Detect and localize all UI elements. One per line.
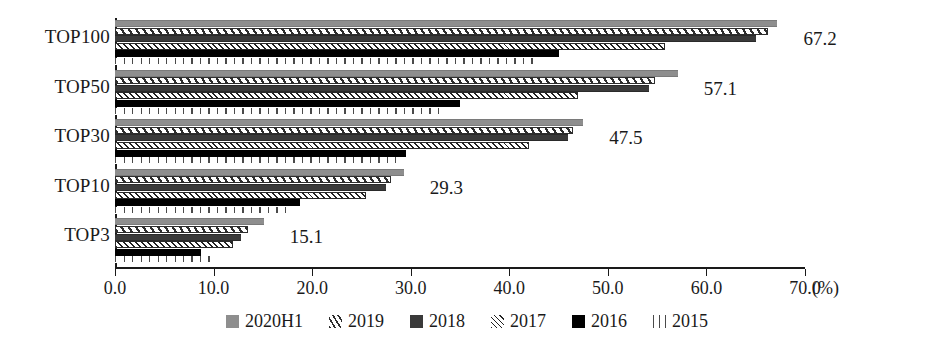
bar-top3-2017 xyxy=(115,241,233,248)
category-label-top10: TOP10 xyxy=(2,175,110,197)
x-tick xyxy=(509,269,510,276)
x-tick-label: 60.0 xyxy=(691,278,723,299)
bar-top3-2016 xyxy=(115,249,201,256)
legend: 2020H120192018201720162015 xyxy=(0,312,934,330)
x-tick xyxy=(115,269,116,276)
x-tick xyxy=(312,269,313,276)
bar-top100-2016 xyxy=(115,50,559,57)
bar-top30-2019 xyxy=(115,127,573,134)
bar-top50-2017 xyxy=(115,92,578,99)
legend-label: 2016 xyxy=(591,312,627,330)
bar-top3-2020h1 xyxy=(115,218,264,225)
bar-top10-2017 xyxy=(115,192,366,199)
category-label-top3: TOP3 xyxy=(2,224,110,246)
bar-top30-2017 xyxy=(115,142,529,149)
legend-label: 2020H1 xyxy=(245,312,303,330)
category-label-top100: TOP100 xyxy=(2,26,110,48)
legend-item-2015[interactable]: 2015 xyxy=(653,312,708,330)
bar-top10-2020h1 xyxy=(115,169,404,176)
bar-top10-2018 xyxy=(115,184,386,191)
x-tick-label: 50.0 xyxy=(592,278,624,299)
x-tick xyxy=(411,269,412,276)
legend-item-2018[interactable]: 2018 xyxy=(410,312,465,330)
bar-top10-2016 xyxy=(115,199,300,206)
bar-top100-2015 xyxy=(115,58,539,65)
bar-top100-2020h1 xyxy=(115,20,777,27)
category-label-group: TOP100TOP50TOP30TOP10TOP3 xyxy=(0,18,110,268)
x-tick xyxy=(706,269,707,276)
bar-chart: TOP100TOP50TOP30TOP10TOP3 67.257.147.529… xyxy=(0,0,934,350)
bar-group xyxy=(115,119,805,169)
data-label-top100: 67.2 xyxy=(803,28,836,50)
bar-top30-2016 xyxy=(115,150,406,157)
data-label-top30: 47.5 xyxy=(609,127,642,149)
bar-group xyxy=(115,20,805,70)
swatch-2020h1-icon xyxy=(226,315,239,328)
x-tick xyxy=(608,269,609,276)
bar-top50-2015 xyxy=(115,108,445,115)
category-label-top30: TOP30 xyxy=(2,125,110,147)
swatch-2015-icon xyxy=(653,315,666,328)
legend-item-2017[interactable]: 2017 xyxy=(491,312,546,330)
swatch-2019-icon xyxy=(329,315,342,328)
bar-top100-2017 xyxy=(115,43,665,50)
x-tick-label: 0.0 xyxy=(104,278,127,299)
bar-top3-2015 xyxy=(115,256,217,263)
swatch-2016-icon xyxy=(572,315,585,328)
legend-label: 2017 xyxy=(510,312,546,330)
bar-top10-2015 xyxy=(115,207,292,214)
data-label-top50: 57.1 xyxy=(704,78,737,100)
swatch-2018-icon xyxy=(410,315,423,328)
x-tick-label: 30.0 xyxy=(395,278,427,299)
bar-top30-2020h1 xyxy=(115,119,583,126)
swatch-2017-icon xyxy=(491,315,504,328)
bar-top50-2016 xyxy=(115,100,460,107)
bar-top30-2018 xyxy=(115,134,568,141)
bar-top100-2019 xyxy=(115,28,768,35)
x-axis-unit-label: (%) xyxy=(812,278,839,299)
x-tick-label: 40.0 xyxy=(494,278,526,299)
x-tick xyxy=(214,269,215,276)
x-axis-ticks: 0.010.020.030.040.050.060.070.0 xyxy=(115,269,815,309)
data-label-top3: 15.1 xyxy=(290,226,323,248)
bar-top50-2020h1 xyxy=(115,70,678,77)
bar-top100-2018 xyxy=(115,35,756,42)
bar-top3-2018 xyxy=(115,234,241,241)
bar-top30-2015 xyxy=(115,157,396,164)
bar-group xyxy=(115,218,805,268)
data-label-top10: 29.3 xyxy=(430,177,463,199)
bar-top3-2019 xyxy=(115,226,248,233)
legend-label: 2018 xyxy=(429,312,465,330)
bar-top10-2019 xyxy=(115,176,391,183)
category-label-top50: TOP50 xyxy=(2,76,110,98)
legend-label: 2019 xyxy=(348,312,384,330)
legend-item-2020h1[interactable]: 2020H1 xyxy=(226,312,303,330)
x-tick-label: 20.0 xyxy=(296,278,328,299)
x-tick xyxy=(805,269,806,276)
plot-area: 67.257.147.529.315.1 xyxy=(115,18,805,266)
legend-label: 2015 xyxy=(672,312,708,330)
bar-group xyxy=(115,70,805,120)
bar-top50-2018 xyxy=(115,85,649,92)
x-tick-label: 10.0 xyxy=(198,278,230,299)
legend-item-2016[interactable]: 2016 xyxy=(572,312,627,330)
bar-top50-2019 xyxy=(115,77,655,84)
legend-item-2019[interactable]: 2019 xyxy=(329,312,384,330)
